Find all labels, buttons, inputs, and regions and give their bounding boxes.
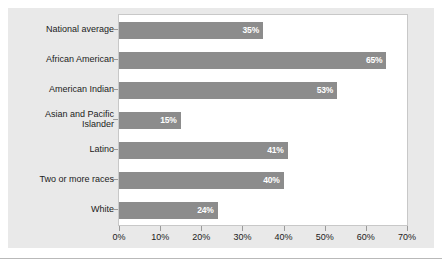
bar: 65% — [119, 52, 386, 69]
chart-panel: National averageAfrican AmericanAmerican… — [8, 8, 434, 248]
category-axis-labels: National averageAfrican AmericanAmerican… — [18, 14, 114, 226]
bar-row: 35% — [119, 22, 407, 39]
category-tick — [113, 59, 118, 60]
bar-row: 53% — [119, 82, 407, 99]
bar-value-label: 53% — [317, 85, 333, 95]
bar-value-label: 41% — [267, 145, 283, 155]
bar-value-label: 35% — [243, 25, 259, 35]
x-axis-tick-label: 50% — [316, 232, 334, 242]
x-axis-tick — [242, 226, 243, 231]
category-tick — [113, 179, 118, 180]
x-axis-tick-label: 10% — [151, 232, 169, 242]
x-axis-tick-label: 30% — [233, 232, 251, 242]
bar: 40% — [119, 172, 284, 189]
x-axis-tick-label: 60% — [357, 232, 375, 242]
x-axis-tick-label: 20% — [192, 232, 210, 242]
category-tick — [113, 209, 118, 210]
category-tick — [113, 149, 118, 150]
x-axis-tick — [284, 226, 285, 231]
x-axis-tick-label: 40% — [275, 232, 293, 242]
bar: 35% — [119, 22, 263, 39]
bottom-separator-rule — [0, 258, 442, 259]
bars-layer: 35%65%53%15%41%40%24% — [119, 15, 407, 225]
x-axis-tick — [366, 226, 367, 231]
x-axis: 0%10%20%30%40%50%60%70% — [118, 226, 408, 248]
x-axis-tick — [160, 226, 161, 231]
bar-value-label: 40% — [263, 175, 279, 185]
x-axis-tick-label: 70% — [398, 232, 416, 242]
chart-screenshot: National averageAfrican AmericanAmerican… — [0, 0, 442, 269]
category-tick — [113, 29, 118, 30]
bar-row: 24% — [119, 202, 407, 219]
bar-row: 15% — [119, 112, 407, 129]
category-tick — [113, 119, 118, 120]
bar: 15% — [119, 112, 181, 129]
bar: 24% — [119, 202, 218, 219]
bar-value-label: 15% — [160, 115, 176, 125]
bar-value-label: 24% — [197, 205, 213, 215]
x-axis-tick — [201, 226, 202, 231]
category-label: White — [18, 204, 114, 215]
category-tick — [113, 89, 118, 90]
category-label: Asian and Pacific Islander — [18, 109, 114, 130]
category-label: National average — [18, 24, 114, 35]
bar: 53% — [119, 82, 337, 99]
category-label: American Indian — [18, 84, 114, 95]
category-label: African American — [18, 54, 114, 65]
bar: 41% — [119, 142, 288, 159]
bar-row: 65% — [119, 52, 407, 69]
x-axis-tick — [407, 226, 408, 231]
x-axis-tick — [325, 226, 326, 231]
bar-row: 41% — [119, 142, 407, 159]
category-label: Two or more races — [18, 174, 114, 185]
bar-value-label: 65% — [366, 55, 382, 65]
bar-row: 40% — [119, 172, 407, 189]
category-label: Latino — [18, 144, 114, 155]
x-axis-tick-label: 0% — [112, 232, 125, 242]
x-axis-tick — [119, 226, 120, 231]
